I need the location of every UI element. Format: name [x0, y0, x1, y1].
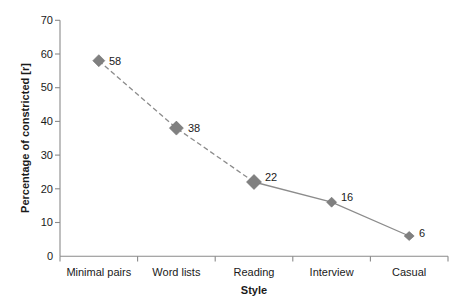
data-point-label: 58 — [109, 55, 121, 67]
y-tick-label: 60 — [41, 48, 53, 60]
chart-canvas: Percentage of constricted [r] 70 60 50 4… — [0, 0, 456, 307]
y-tick-label: 70 — [41, 14, 53, 26]
y-tick-label: 30 — [41, 149, 53, 161]
data-point-label: 6 — [419, 227, 425, 239]
x-category-label: Casual — [392, 266, 426, 278]
line-chart: Percentage of constricted [r] 70 60 50 4… — [0, 0, 456, 307]
y-tick-label: 20 — [41, 183, 53, 195]
x-axis-title: Style — [241, 284, 267, 296]
x-category-label: Word lists — [152, 266, 201, 278]
y-tick-label: 40 — [41, 115, 53, 127]
data-point-label: 22 — [265, 171, 277, 183]
chart-background — [0, 0, 456, 307]
x-category-label: Minimal pairs — [66, 266, 131, 278]
y-tick-label: 50 — [41, 81, 53, 93]
y-axis-title: Percentage of constricted [r] — [19, 63, 31, 213]
x-category-label: Interview — [310, 266, 354, 278]
x-category-label: Reading — [234, 266, 275, 278]
data-point-label: 38 — [188, 122, 200, 134]
y-tick-label: 10 — [41, 216, 53, 228]
data-point-label: 16 — [341, 191, 353, 203]
y-tick-label: 0 — [47, 250, 53, 262]
